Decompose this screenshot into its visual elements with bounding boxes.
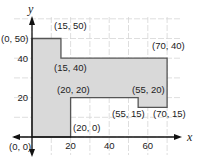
y-axis-arrow-icon — [29, 16, 35, 25]
y-tick-label: 20 — [17, 92, 28, 103]
point-label: (0, 0) — [9, 141, 31, 152]
point-label: (20, 20) — [57, 84, 90, 95]
x-tick-label: 20 — [65, 140, 76, 151]
point-label: (20, 0) — [73, 122, 100, 133]
x-axis-left-arrow-icon — [12, 134, 20, 140]
point-label: (15, 40) — [54, 62, 87, 73]
y-axis-label: y — [27, 2, 34, 16]
point-label: (55, 20) — [132, 84, 165, 95]
y-tick-label: 40 — [17, 53, 28, 64]
x-tick-label: 40 — [104, 140, 115, 151]
point-label: (15, 50) — [54, 20, 87, 31]
x-axis-label: x — [186, 130, 193, 144]
point-label: (55, 15) — [112, 108, 145, 119]
point-label: (70, 15) — [153, 108, 186, 119]
x-tick-label: 60 — [143, 140, 154, 151]
point-label: (70, 40) — [152, 40, 185, 51]
coordinate-plane-chart: xy 2040602040 (0, 50)(15, 50)(15, 40)(70… — [0, 0, 200, 159]
x-axis-arrow-icon — [174, 134, 182, 140]
point-label: (0, 50) — [1, 33, 28, 44]
